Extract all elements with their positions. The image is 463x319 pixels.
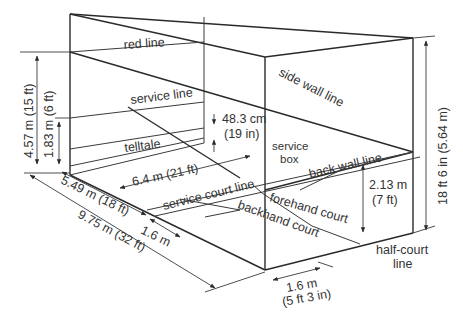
label-service-box-2: box xyxy=(280,153,299,165)
label-back-wall-height-m: 2.13 m xyxy=(369,178,407,192)
label-service-line-height: 1.83 m (6 ft) xyxy=(42,91,56,158)
dim-tick-floor-bottom xyxy=(205,272,265,292)
label-half-court-2: line xyxy=(393,257,413,271)
label-half-court-1: half-court xyxy=(376,243,429,257)
dim-tick-bottom-right xyxy=(413,226,435,233)
label-service-court-depth: 5.49 m (18 ft) xyxy=(59,173,132,218)
service-box-edge-1 xyxy=(205,210,240,217)
label-red-line: red line xyxy=(123,35,165,52)
label-back-wall-height-ft: (7 ft) xyxy=(372,193,398,207)
label-short-line-distance: 6.4 m (21 ft) xyxy=(131,161,200,189)
dim-tick-box-width xyxy=(318,262,333,267)
label-telltale-cm: 48.3 cm xyxy=(222,112,266,126)
label-service-box-1: service xyxy=(272,140,308,152)
label-front-wall-height: 4.57 m (15 ft) xyxy=(22,84,36,158)
label-telltale: telltale xyxy=(124,137,162,155)
text-labels: red line service line telltale side wall… xyxy=(22,35,450,309)
top-near-edge xyxy=(265,38,413,57)
label-side-wall-line: side wall line xyxy=(277,65,347,110)
squash-court-diagram: red line service line telltale side wall… xyxy=(0,0,463,319)
label-side-height: 18 ft 6 in (5.64 m) xyxy=(436,107,450,205)
label-court-length: 9.75 m (32 ft) xyxy=(76,207,148,254)
label-service-line: service line xyxy=(130,85,194,107)
label-telltale-in: (19 in) xyxy=(224,127,259,141)
label-back-wall-line: back wall line xyxy=(308,151,384,181)
dim-tick-top-right xyxy=(413,36,435,38)
